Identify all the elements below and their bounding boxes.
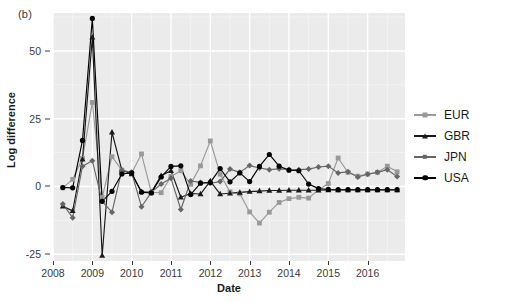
point-square: [198, 163, 203, 168]
y-tick-label: -25: [26, 248, 41, 260]
point-diamond: [306, 166, 312, 172]
x-tick-mark: [210, 261, 211, 265]
legend-key-symbol-circle-icon: [422, 175, 428, 181]
y-tick-mark: [45, 254, 50, 255]
point-square: [336, 156, 341, 161]
point-circle: [375, 187, 380, 192]
x-tick-mark: [328, 261, 329, 265]
point-circle: [80, 138, 85, 143]
grid-major: [53, 13, 405, 261]
point-square: [218, 172, 223, 177]
legend-item-eur[interactable]: EUR: [412, 104, 504, 125]
point-circle: [90, 16, 95, 21]
point-square: [159, 190, 164, 195]
point-circle: [257, 164, 262, 169]
legend-key-jpn-icon: [412, 146, 438, 167]
point-circle: [109, 189, 114, 194]
point-circle: [149, 190, 154, 195]
point-square: [277, 200, 282, 205]
point-circle: [267, 152, 272, 157]
y-tick-mark: [45, 50, 50, 51]
point-circle: [277, 164, 282, 169]
x-tick-mark: [132, 261, 133, 265]
x-tick-label: 2014: [277, 267, 300, 279]
point-circle: [218, 166, 223, 171]
legend-key-eur-icon: [412, 104, 438, 125]
point-circle: [168, 164, 173, 169]
point-circle: [237, 170, 242, 175]
point-circle: [60, 185, 65, 190]
point-circle: [227, 179, 232, 184]
x-tick-mark: [368, 261, 369, 265]
legend-label: EUR: [444, 108, 469, 122]
y-tick-label: 25: [29, 113, 41, 125]
point-circle: [208, 180, 213, 185]
x-tick-label: 2016: [356, 267, 379, 279]
legend: EURGBRJPNUSA: [412, 104, 504, 188]
point-square: [178, 168, 183, 173]
legend-key-symbol-triangle-icon: [422, 133, 428, 138]
point-square: [326, 181, 331, 186]
point-diamond: [178, 207, 184, 213]
point-triangle: [99, 252, 105, 257]
legend-key-gbr-icon: [412, 125, 438, 146]
x-tick-label: 2013: [238, 267, 261, 279]
point-diamond: [315, 164, 321, 170]
x-tick-mark: [289, 261, 290, 265]
legend-item-jpn[interactable]: JPN: [412, 146, 504, 167]
point-circle: [306, 181, 311, 186]
point-square: [306, 196, 311, 201]
plot-panel: [53, 13, 405, 261]
legend-key-symbol-diamond-icon: [423, 154, 427, 158]
y-tick-label: 50: [29, 45, 41, 57]
legend-item-usa[interactable]: USA: [412, 167, 504, 188]
legend-label: USA: [444, 171, 469, 185]
point-square: [257, 221, 262, 226]
point-circle: [316, 186, 321, 191]
x-tick-mark: [250, 261, 251, 265]
y-axis-ticks: -2502550: [0, 13, 53, 261]
point-circle: [365, 187, 370, 192]
point-square: [267, 210, 272, 215]
point-square: [287, 196, 292, 201]
point-triangle: [109, 129, 115, 134]
point-circle: [296, 168, 301, 173]
x-axis-title: Date: [53, 282, 405, 294]
x-tick-mark: [53, 261, 54, 265]
x-axis-ticks: 200820092010201120122013201420152016: [53, 261, 405, 283]
point-circle: [119, 171, 124, 176]
y-tick-label: 0: [35, 180, 41, 192]
grid-minor: [53, 13, 405, 261]
point-square: [90, 100, 95, 105]
point-circle: [336, 187, 341, 192]
chart-figure: (b) Log difference -2502550 200820092010…: [0, 0, 507, 302]
y-tick-mark: [45, 118, 50, 119]
x-tick-label: 2012: [199, 267, 222, 279]
point-circle: [385, 187, 390, 192]
legend-item-gbr[interactable]: GBR: [412, 125, 504, 146]
legend-key-symbol-square-icon: [423, 112, 428, 117]
point-triangle: [89, 34, 95, 39]
legend-label: GBR: [444, 129, 470, 143]
point-circle: [139, 190, 144, 195]
point-circle: [345, 187, 350, 192]
point-circle: [188, 192, 193, 197]
x-tick-label: 2010: [120, 267, 143, 279]
point-circle: [70, 185, 75, 190]
point-square: [70, 177, 75, 182]
point-circle: [395, 187, 400, 192]
x-tick-mark: [171, 261, 172, 265]
point-circle: [286, 168, 291, 173]
x-tick-mark: [92, 261, 93, 265]
x-tick-label: 2008: [41, 267, 64, 279]
point-circle: [247, 179, 252, 184]
point-square: [110, 154, 115, 159]
point-diamond: [89, 158, 95, 164]
x-tick-label: 2009: [81, 267, 104, 279]
point-circle: [178, 163, 183, 168]
y-tick-mark: [45, 186, 50, 187]
legend-label: JPN: [444, 150, 467, 164]
point-circle: [198, 181, 203, 186]
plot-canvas: [53, 13, 405, 261]
point-square: [139, 152, 144, 157]
